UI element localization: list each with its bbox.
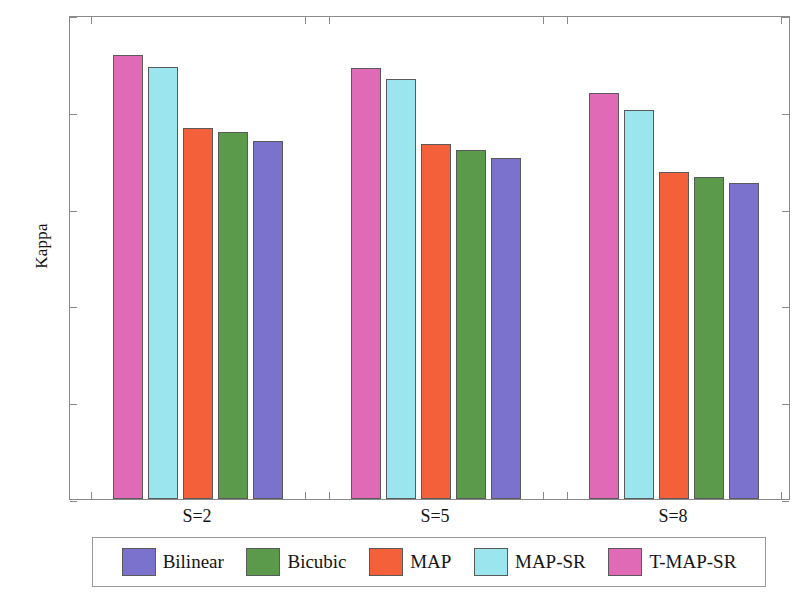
y-axis-title: Kappa: [32, 186, 52, 306]
bar-map-sr-s-8: [624, 110, 654, 499]
bar-bicubic-s-8: [694, 177, 724, 499]
legend-entry-bilinear: Bilinear: [122, 548, 224, 576]
y-axis-tick-mark-right: [782, 501, 789, 502]
plot-area: [69, 16, 790, 500]
legend-color-swatch: [122, 548, 156, 576]
y-axis-tick-mark: [70, 211, 77, 212]
y-axis-tick-mark: [70, 501, 77, 502]
x-axis-tick-label: S=2: [127, 506, 267, 527]
legend-entry-map: MAP: [369, 548, 451, 576]
x-axis-tick-mark-top: [543, 17, 544, 24]
legend-label: Bicubic: [287, 551, 346, 573]
legend-color-swatch: [474, 548, 508, 576]
x-axis-tick-mark-bottom: [781, 492, 782, 499]
bar-t-map-sr-s-5: [351, 68, 381, 499]
y-axis-tick-mark: [70, 404, 77, 405]
x-axis-tick-mark-bottom: [91, 492, 92, 499]
bar-map-sr-s-5: [386, 79, 416, 499]
x-axis-tick-mark-top: [329, 17, 330, 24]
legend-label: MAP: [410, 551, 451, 573]
bar-map-s-2: [183, 128, 213, 499]
bar-bicubic-s-5: [456, 150, 486, 499]
bar-chart-figure: Kappa 00.20.40.60.81 S=2S=5S=8 BilinearB…: [0, 0, 796, 594]
y-axis-tick-mark: [70, 114, 77, 115]
bar-t-map-sr-s-8: [589, 93, 619, 499]
x-axis-tick-mark-bottom: [305, 492, 306, 499]
legend-color-swatch: [246, 548, 280, 576]
bar-map-s-5: [421, 144, 451, 499]
bar-bilinear-s-2: [253, 141, 283, 499]
bar-map-s-8: [659, 172, 689, 499]
legend-entry-map-sr: MAP-SR: [474, 548, 586, 576]
y-axis-tick-mark: [70, 17, 77, 18]
bar-map-sr-s-2: [148, 67, 178, 499]
bar-bicubic-s-2: [218, 132, 248, 499]
x-axis-tick-mark-top: [305, 17, 306, 24]
x-axis-tick-mark-bottom: [567, 492, 568, 499]
legend-color-swatch: [369, 548, 403, 576]
y-axis-tick-mark-right: [782, 114, 789, 115]
x-axis-tick-mark-top: [91, 17, 92, 24]
bar-bilinear-s-8: [729, 183, 759, 499]
legend-label: Bilinear: [163, 551, 224, 573]
legend-entry-t-map-sr: T-MAP-SR: [608, 548, 736, 576]
y-axis-tick-mark-right: [782, 307, 789, 308]
bar-t-map-sr-s-2: [113, 55, 143, 499]
x-axis-tick-mark-top: [781, 17, 782, 24]
y-axis-tick-mark: [70, 307, 77, 308]
legend-label: MAP-SR: [515, 551, 586, 573]
x-axis-tick-mark-bottom: [329, 492, 330, 499]
x-axis-tick-label: S=8: [603, 506, 743, 527]
bar-bilinear-s-5: [491, 158, 521, 499]
legend-entry-bicubic: Bicubic: [246, 548, 346, 576]
x-axis-tick-mark-top: [567, 17, 568, 24]
x-axis-tick-mark-bottom: [543, 492, 544, 499]
x-axis-tick-label: S=5: [365, 506, 505, 527]
y-axis-tick-mark-right: [782, 404, 789, 405]
legend-label: T-MAP-SR: [649, 551, 736, 573]
legend-color-swatch: [608, 548, 642, 576]
y-axis-tick-mark-right: [782, 17, 789, 18]
chart-legend: BilinearBicubicMAPMAP-SRT-MAP-SR: [92, 537, 766, 587]
y-axis-tick-mark-right: [782, 211, 789, 212]
